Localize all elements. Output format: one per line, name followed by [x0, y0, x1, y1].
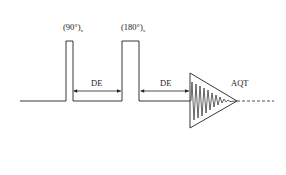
pulse-train-line: [20, 41, 190, 101]
pulse-sequence-svg: (90°)x (180°)x DE DE AQT: [0, 0, 286, 175]
delay-2-label: DE: [160, 78, 171, 88]
delay-1-label: DE: [91, 78, 102, 88]
acquisition-label: AQT: [231, 78, 249, 88]
pulse-180-label: (180°)x: [121, 22, 146, 33]
pulse-sequence-diagram: (90°)x (180°)x DE DE AQT: [0, 0, 286, 175]
pulse-90-label: (90°)x: [63, 22, 84, 33]
